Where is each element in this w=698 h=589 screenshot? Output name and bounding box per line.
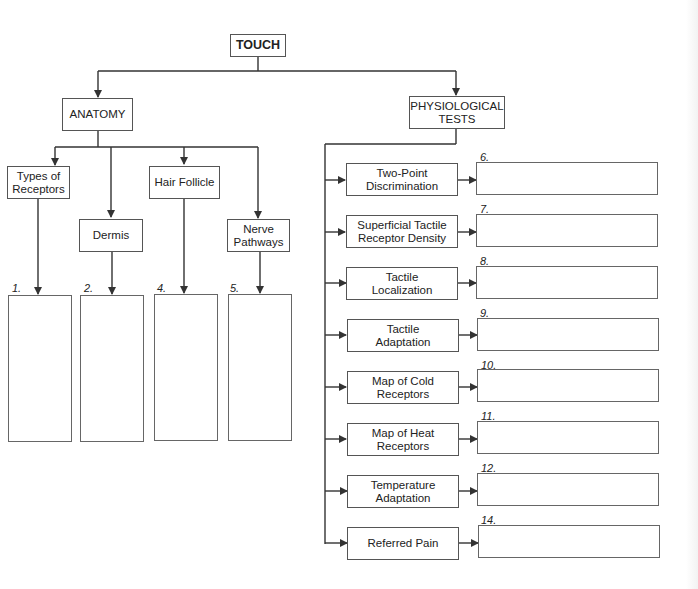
dermis-box: Dermis bbox=[79, 219, 143, 252]
answer-box-10[interactable] bbox=[477, 369, 659, 402]
test-superficial-tactile-receptor-density: Superficial Tactile Receptor Density bbox=[346, 215, 458, 248]
answer-box-7[interactable] bbox=[476, 214, 658, 247]
answer-box-12[interactable] bbox=[477, 473, 659, 506]
answer-number-4: 4. bbox=[157, 282, 166, 294]
test-map-of-heat-receptors: Map of Heat Receptors bbox=[347, 423, 459, 456]
types-of-receptors-box: Types of Receptors bbox=[7, 166, 70, 199]
test-temperature-adaptation: Temperature Adaptation bbox=[347, 475, 459, 508]
nerve-pathways-box: Nerve Pathways bbox=[227, 219, 290, 252]
answer-box-8[interactable] bbox=[476, 266, 658, 299]
test-tactile-localization: Tactile Localization bbox=[346, 267, 458, 300]
test-referred-pain: Referred Pain bbox=[347, 527, 459, 560]
test-map-of-cold-receptors: Map of Cold Receptors bbox=[347, 371, 459, 404]
answer-box-2[interactable] bbox=[80, 295, 144, 442]
answer-number-2: 2. bbox=[84, 282, 93, 294]
answer-box-6[interactable] bbox=[476, 162, 658, 195]
test-two-point-discrimination: Two-Point Discrimination bbox=[346, 163, 458, 196]
answer-number-1: 1. bbox=[12, 282, 21, 294]
physiological-tests-box: PHYSIOLOGICAL TESTS bbox=[409, 96, 505, 129]
answer-box-1[interactable] bbox=[8, 295, 72, 442]
anatomy-box: ANATOMY bbox=[62, 98, 133, 131]
test-tactile-adaptation: Tactile Adaptation bbox=[347, 319, 459, 352]
touch-root-box: TOUCH bbox=[230, 34, 286, 57]
answer-box-4[interactable] bbox=[154, 294, 218, 441]
answer-box-14[interactable] bbox=[478, 525, 660, 558]
answer-box-5[interactable] bbox=[228, 294, 292, 441]
answer-box-11[interactable] bbox=[477, 421, 659, 454]
answer-box-9[interactable] bbox=[477, 318, 659, 351]
hair-follicle-box: Hair Follicle bbox=[149, 166, 220, 199]
answer-number-5: 5. bbox=[230, 282, 239, 294]
